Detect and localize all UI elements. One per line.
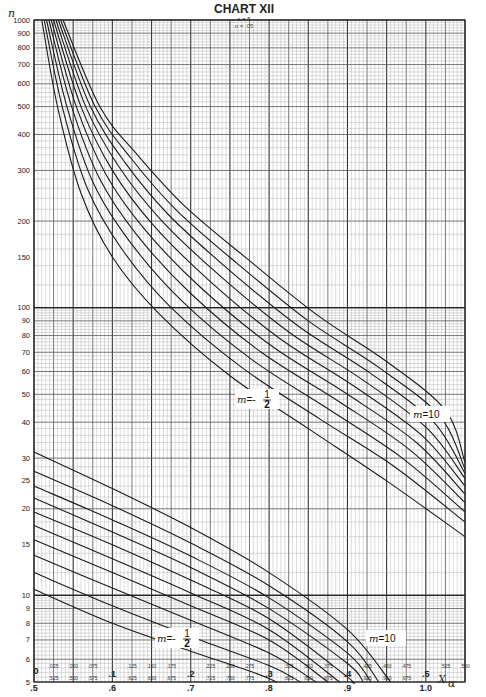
y-tick-label: 60 [22,367,30,376]
y-tick-label: 100 [17,303,30,312]
chart-title: CHART XII [214,2,274,16]
y-tick-label: 800 [17,43,30,52]
x-tick-label-upper-minor: .275 [245,663,255,669]
x-tick-label-lower-minor: .950 [382,675,392,681]
y-tick-label: 70 [22,348,30,357]
x-tick-label-lower-minor: .650 [147,675,157,681]
y-tick-label: 600 [17,79,30,88]
x-tick-label-upper-minor: .150 [147,663,157,669]
x-tick-label-lower-major: .5 [30,683,38,693]
x-tick-label-lower-minor: .750 [225,675,235,681]
curve-label-text: m=- [237,394,256,405]
curve-label-text: m=- [157,633,176,644]
x-tick-label-upper-major: .2 [187,669,195,679]
curve-labels: m=-12m=10m=-12m=10 [155,389,450,649]
y-tick-label: 1000 [13,16,30,25]
curve-label-denominator: 2 [264,399,270,410]
y-tick-label: 80 [22,331,30,340]
y-tick-label: 20 [22,504,30,513]
x-tick-label-lower-minor: .725 [205,675,215,681]
x-tick-label-upper-minor: .125 [127,663,137,669]
y-tick-label: 90 [22,316,30,325]
y-tick-label: 10 [22,591,30,600]
x-tick-label-upper-major: .1 [109,669,117,679]
x-tick-label-lower-minor: .625 [127,675,137,681]
x-tick-label-lower-major: .8 [265,683,273,693]
y-tick-label: 150 [17,253,30,262]
y-tick-label: 300 [17,166,30,175]
x-tick-label-lower-minor: .850 [303,675,313,681]
x-tick-label-upper-minor: .475 [401,663,411,669]
y-tick-label: 8 [26,619,30,628]
x-tick-label-upper-major: .5 [422,669,430,679]
chart-xii: CHART XII s = 5 α = .05 n X α 5678910152… [0,0,486,697]
x-tick-label-upper-minor: .025 [49,663,59,669]
y-tick-label: 500 [17,102,30,111]
curve-upper-m-0 [44,20,465,522]
x-tick-label-lower-major: .6 [109,683,117,693]
y-tick-label: 700 [17,60,30,69]
y-tick-label: 7 [26,635,30,644]
y-tick-label: 9 [26,604,30,613]
x-tick-label-upper-minor: .525 [441,663,451,669]
y-tick-label: 50 [22,390,30,399]
x-tick-labels: .025.050.075.125.150.175.225.250.275.325… [30,663,470,693]
y-tick-label: 200 [17,217,30,226]
chart-subtitle-alpha: α = .05 [235,23,254,29]
x-tick-label-lower-minor: .550 [68,675,78,681]
y-tick-label: 6 [26,655,30,664]
label-upper-m-minus-half: m=-12 [235,389,279,410]
x-tick-label-lower-minor: .575 [88,675,98,681]
x-tick-label-upper-minor: .450 [382,663,392,669]
x-tick-label-lower-minor: .525 [49,675,59,681]
curve-label-denominator: 2 [184,638,190,649]
x-tick-label-lower-minor: .975 [401,675,411,681]
x-tick-label-lower-minor: .675 [166,675,176,681]
x-tick-label-lower-major: .7 [187,683,195,693]
x-tick-label-upper-minor: .050 [68,663,78,669]
x-tick-label-lower-major: 1.0 [420,683,433,693]
curve-label-text: m=10 [369,633,396,644]
curve-upper-m-4 [56,20,465,478]
x-tick-label-upper-minor: .175 [166,663,176,669]
x-tick-label-upper-minor: .075 [88,663,98,669]
curve-upper-m-2 [51,20,465,494]
y-tick-label: 40 [22,418,30,427]
y-tick-labels: 5678910152025304050607080901001502003004… [13,16,30,687]
y-tick-label: 25 [22,476,30,485]
curve-label-text: m=10 [413,409,440,420]
y-tick-label: 400 [17,130,30,139]
y-tick-label: 900 [17,29,30,38]
label-lower-m-minus-half: m=-12 [155,628,199,649]
y-tick-label: 30 [22,454,30,463]
label-lower-m-10: m=10 [366,630,406,646]
x-tick-label-lower-minor: .775 [245,675,255,681]
y-tick-label: 15 [22,540,30,549]
x-tick-label-upper-minor: .225 [205,663,215,669]
x-tick-label-lower-major: .9 [344,683,352,693]
label-upper-m-10: m=10 [410,406,450,422]
x-tick-label-lower-minor: .825 [284,675,294,681]
